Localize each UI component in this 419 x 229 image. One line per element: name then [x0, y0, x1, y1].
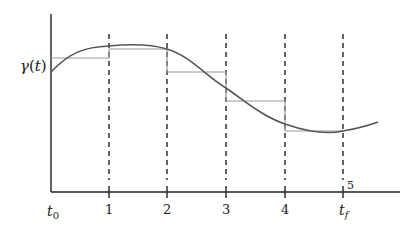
y-axis-label: γ(t): [20, 57, 47, 75]
x-label-5: 5: [347, 179, 354, 192]
dashed-dividers: [109, 34, 343, 180]
diagram-canvas: γ(t) t0 1 2 3 4 tf 5: [0, 0, 419, 229]
x-label-t0: t0: [47, 203, 59, 221]
x-label-1: 1: [105, 202, 113, 217]
x-label-2: 2: [163, 202, 171, 217]
step-function: [51, 49, 343, 131]
x-label-4: 4: [281, 202, 289, 217]
x-label-tf: tf: [339, 202, 351, 220]
x-label-3: 3: [222, 202, 230, 217]
